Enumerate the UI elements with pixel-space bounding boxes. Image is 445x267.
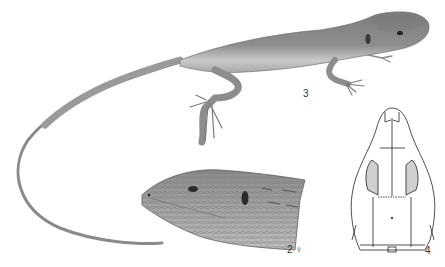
- skull-figure: [351, 108, 435, 252]
- figure-label-4: 4: [425, 245, 431, 256]
- figure-label-2: 2 ♀: [287, 244, 303, 255]
- figure-label-3: 3: [303, 88, 309, 99]
- illustration-plate: 3 2 ♀ 4: [0, 0, 445, 267]
- lizard-head-figure: [142, 170, 305, 250]
